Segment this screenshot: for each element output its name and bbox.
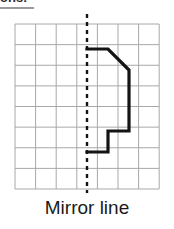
caption-mirror-line: Mirror line — [0, 196, 174, 220]
header-fragment: ons: — [0, 0, 36, 9]
header-fragment-text: ons: — [0, 0, 27, 4]
figure-svg — [0, 10, 174, 200]
header-fragment-underline — [0, 7, 34, 9]
mirror-line-figure — [0, 10, 174, 200]
shape-outline — [87, 49, 129, 152]
